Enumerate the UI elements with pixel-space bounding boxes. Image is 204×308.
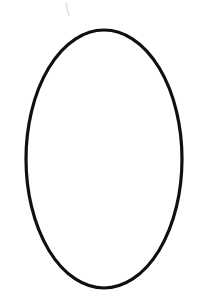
drawing-surface bbox=[0, 0, 204, 308]
drawing-canvas: Black outlined oval shape centered on wh… bbox=[0, 0, 204, 308]
canvas-background bbox=[0, 0, 204, 308]
